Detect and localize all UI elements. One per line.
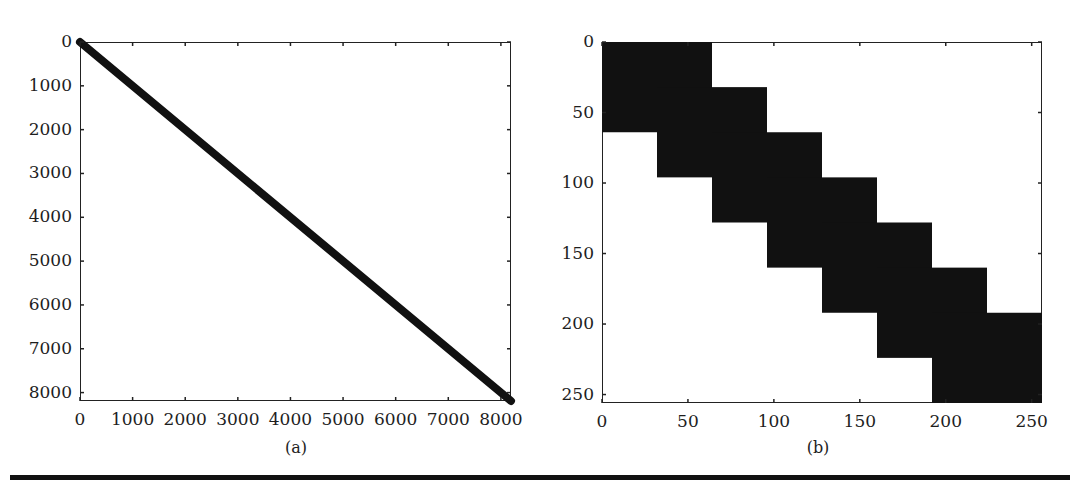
y-tick-label: 100 [532, 174, 594, 191]
y-tick-label: 0 [532, 33, 594, 50]
x-tick-label: 200 [930, 413, 962, 430]
x-tick-label: 100 [758, 413, 790, 430]
bottom-rule [10, 475, 1070, 480]
x-tick-label: 250 [1015, 413, 1047, 430]
dense-block [932, 313, 1042, 403]
x-tick-label: 50 [677, 413, 699, 430]
caption-b: (b) [807, 438, 830, 457]
panel-b: 050100150200250050100150200250 (b) [0, 0, 1075, 470]
y-tick-label: 150 [532, 245, 594, 262]
y-tick-label: 200 [532, 315, 594, 332]
y-tick-label: 250 [532, 386, 594, 403]
x-tick-label: 0 [597, 413, 608, 430]
x-tick-label: 150 [844, 413, 876, 430]
y-tick-label: 50 [532, 104, 594, 121]
